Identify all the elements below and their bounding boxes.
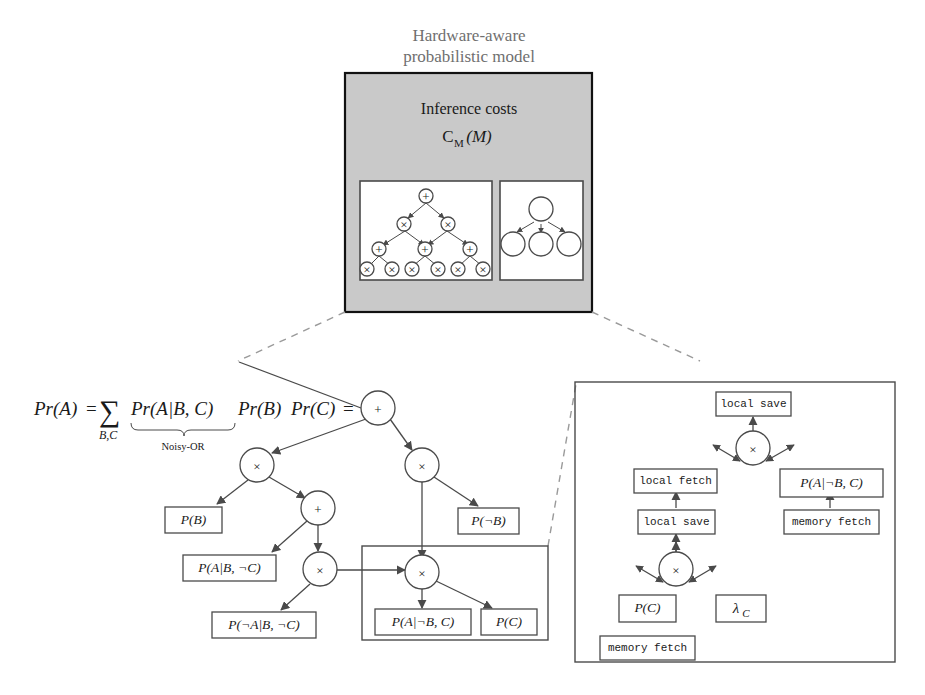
svg-text:×: × — [454, 262, 461, 277]
circuit-leaf-boxes: P(B) P(A|B, ¬C) P(¬A|B, ¬C) P(¬B) P(A|¬B… — [165, 507, 537, 638]
svg-text:×: × — [444, 217, 451, 232]
svg-text:×: × — [253, 459, 260, 474]
cost-symbol-c: C — [442, 127, 453, 146]
svg-text:×: × — [672, 563, 679, 578]
figure-svg: Hardware-aware probabilistic model Infer… — [0, 0, 925, 695]
svg-text:memory fetch: memory fetch — [608, 642, 687, 654]
equation-lhs: Pr(A) — [33, 398, 77, 420]
cost-symbol: C M (M) — [442, 127, 492, 149]
svg-text:P(A|¬B, C): P(A|¬B, C) — [391, 614, 455, 629]
svg-text:×: × — [408, 262, 415, 277]
svg-text:P(¬A|B, ¬C): P(¬A|B, ¬C) — [227, 617, 300, 632]
svg-text:×: × — [418, 459, 425, 474]
equation-eq-1: = — [86, 398, 97, 419]
svg-text:×: × — [418, 566, 425, 581]
svg-text:local save: local save — [720, 398, 786, 410]
lambda-subscript: C — [742, 607, 750, 619]
svg-text:P(C): P(C) — [495, 614, 523, 629]
svg-text:+: + — [375, 242, 382, 257]
detail-box-lambda-c[interactable] — [716, 595, 766, 622]
svg-text:×: × — [316, 563, 323, 578]
inference-costs-title: Inference costs — [421, 100, 517, 117]
svg-text:+: + — [374, 402, 381, 417]
noisy-or-underbrace — [131, 423, 235, 436]
svg-text:local save: local save — [643, 516, 709, 528]
svg-text:×: × — [749, 442, 756, 457]
svg-text:P(C): P(C) — [633, 600, 661, 615]
svg-text:×: × — [400, 217, 407, 232]
svg-text:+: + — [314, 502, 321, 517]
svg-text:P(A|B, ¬C): P(A|B, ¬C) — [197, 560, 261, 575]
equation-sum-symbol: ∑ — [99, 394, 120, 428]
svg-text:+: + — [421, 242, 428, 257]
svg-text:×: × — [479, 262, 486, 277]
svg-text:memory fetch: memory fetch — [792, 516, 871, 528]
svg-text:P(A|¬B, C): P(A|¬B, C) — [799, 475, 863, 490]
svg-text:P(B): P(B) — [180, 512, 207, 527]
dashed-connector-left — [238, 312, 345, 361]
bn-node-parent — [529, 197, 553, 221]
header-line-1: Hardware-aware — [412, 26, 525, 45]
cost-symbol-sub: M — [454, 137, 464, 149]
equation-term-1: Pr(A|B, C) — [130, 398, 213, 420]
svg-text:P(¬B): P(¬B) — [470, 513, 506, 528]
equation-term-3: Pr(C) — [290, 398, 335, 420]
svg-text:×: × — [363, 262, 370, 277]
bn-node-child-2 — [529, 232, 553, 256]
equation-term-2: Pr(B) — [237, 398, 281, 420]
svg-text:local fetch: local fetch — [639, 475, 712, 487]
dashed-connector-zoom — [548, 384, 576, 546]
svg-text:+: + — [422, 189, 429, 204]
figure-canvas: Hardware-aware probabilistic model Infer… — [0, 0, 925, 695]
detail-panel-nodes: × × — [659, 431, 770, 586]
equation: Pr(A) = ∑ B,C Pr(A|B, C) Pr(B) Pr(C) = N… — [33, 394, 354, 452]
dashed-connector-right — [592, 312, 700, 361]
bn-node-child-3 — [557, 232, 581, 256]
detail-panel-boxes: local save local fetch local save P(A|¬B… — [600, 392, 883, 660]
header-line-2: probabilistic model — [403, 47, 535, 66]
cost-symbol-arg: (M) — [466, 127, 492, 146]
svg-text:×: × — [434, 262, 441, 277]
svg-text:×: × — [388, 262, 395, 277]
lambda-symbol: λ — [732, 600, 740, 616]
equation-sum-subscript: B,C — [99, 428, 118, 442]
svg-text:+: + — [466, 242, 473, 257]
bn-node-child-1 — [501, 232, 525, 256]
noisy-or-label: Noisy-OR — [161, 441, 204, 452]
